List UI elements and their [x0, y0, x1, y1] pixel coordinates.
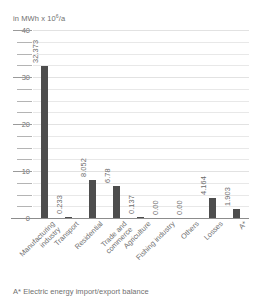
bar-slot: 0.233 — [57, 30, 81, 218]
bar[interactable] — [113, 186, 120, 218]
bar-value-label: 4.164 — [199, 176, 208, 195]
y-axis-tick-mark-minor — [17, 183, 32, 184]
bar-value-label: 0.137 — [127, 195, 136, 214]
bar-value-label: 1.903 — [223, 187, 232, 206]
plot-area: 403020100 32.3730.2338.0526.780.1370.000… — [33, 30, 249, 218]
category-label-line: A* — [237, 219, 249, 231]
bar-value-label: 0.00 — [175, 200, 184, 215]
x-axis-category-labels: ManufacturingindustryTransportResidentia… — [33, 220, 249, 282]
bar-slot: 0.00 — [153, 30, 177, 218]
bar[interactable] — [209, 198, 216, 218]
y-axis-tick-mark-minor — [17, 195, 32, 196]
bar-slot: 4.164 — [201, 30, 225, 218]
category-label-line: Others — [179, 219, 201, 241]
y-axis-tick-mark — [13, 77, 32, 78]
y-axis-tick-mark-minor — [17, 89, 32, 90]
x-axis-category-label: Manufacturingindustry — [0, 220, 63, 295]
y-axis-tick-mark-minor — [17, 148, 32, 149]
bar-slot: 1.903 — [225, 30, 249, 218]
bar-value-label: 0.00 — [151, 200, 160, 215]
y-axis-tick-mark-minor — [17, 42, 32, 43]
bar[interactable] — [233, 209, 240, 218]
y-axis-tick-mark-minor — [17, 136, 32, 137]
bar-value-label: 8.052 — [79, 158, 88, 177]
bar-value-label: 0.233 — [55, 195, 64, 214]
chart-footnote: A* Electric energy import/export balance — [13, 287, 149, 296]
y-axis-tick-mark-minor — [17, 54, 32, 55]
category-label-line: Losses — [202, 219, 225, 242]
y-axis-tick-mark — [13, 124, 32, 125]
y-axis-tick-mark-minor — [17, 65, 32, 66]
bar[interactable] — [41, 66, 48, 218]
unit-caption-text: in MWh x 10 — [13, 14, 56, 23]
bar-slot: 0.00 — [177, 30, 201, 218]
bar-slot: 6.78 — [105, 30, 129, 218]
y-axis-tick-mark — [13, 30, 32, 31]
bars-container: 32.3730.2338.0526.780.1370.000.004.1641.… — [33, 30, 249, 218]
category-label-line: commerce — [65, 226, 134, 295]
bar-chart: in MWh x 106/a 403020100 32.3730.2338.05… — [0, 0, 259, 302]
y-axis-tick-mark — [13, 171, 32, 172]
bar-slot: 32.373 — [33, 30, 57, 218]
y-axis-tick-mark-minor — [17, 206, 32, 207]
bar-value-label: 6.78 — [103, 168, 112, 183]
category-label-line: industry — [0, 226, 63, 295]
y-axis-tick-mark-minor — [17, 159, 32, 160]
x-axis-baseline — [11, 218, 249, 219]
y-axis-tick-mark-minor — [17, 112, 32, 113]
y-axis-unit-caption: in MWh x 106/a — [13, 14, 65, 23]
unit-caption-suffix: /a — [59, 14, 65, 23]
bar-value-label: 32.373 — [31, 40, 40, 63]
bar-slot: 0.137 — [129, 30, 153, 218]
y-axis-tick-mark-minor — [17, 101, 32, 102]
bar-slot: 8.052 — [81, 30, 105, 218]
bar[interactable] — [89, 180, 96, 218]
